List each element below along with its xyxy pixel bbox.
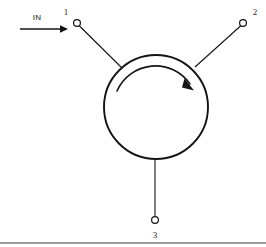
port-2-terminal[interactable] [240, 20, 247, 27]
circulator-body [104, 55, 208, 159]
port-2-label: 2 [253, 7, 258, 17]
port-1-label: 1 [64, 7, 69, 17]
port-3-terminal[interactable] [152, 217, 159, 224]
port-1-terminal[interactable] [74, 20, 81, 27]
port-3-label: 3 [153, 230, 158, 240]
input-flow-label: IN [33, 13, 42, 22]
diagram-canvas: IN 1 2 3 [0, 0, 266, 247]
circulator-figure: IN 1 2 3 [0, 0, 266, 247]
